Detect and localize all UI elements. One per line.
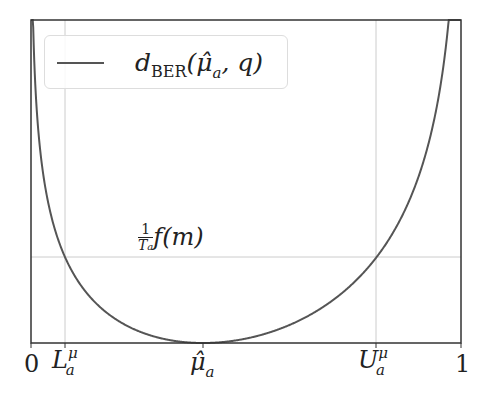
legend-line-swatch xyxy=(57,62,104,64)
threshold-label: 1 Ta f(m) xyxy=(138,222,204,252)
legend-label: dBER(μ̂a, q) xyxy=(135,48,263,77)
legend: dBER(μ̂a, q) xyxy=(44,35,288,89)
x-tick-label-U: Uμa xyxy=(358,348,385,372)
x-tick-label-1: 1 xyxy=(455,352,470,376)
x-tick-label-0: 0 xyxy=(24,352,39,376)
x-tick-label-L: Lμa xyxy=(52,348,75,372)
x-tick-label-mu: μ̂a xyxy=(190,350,215,374)
